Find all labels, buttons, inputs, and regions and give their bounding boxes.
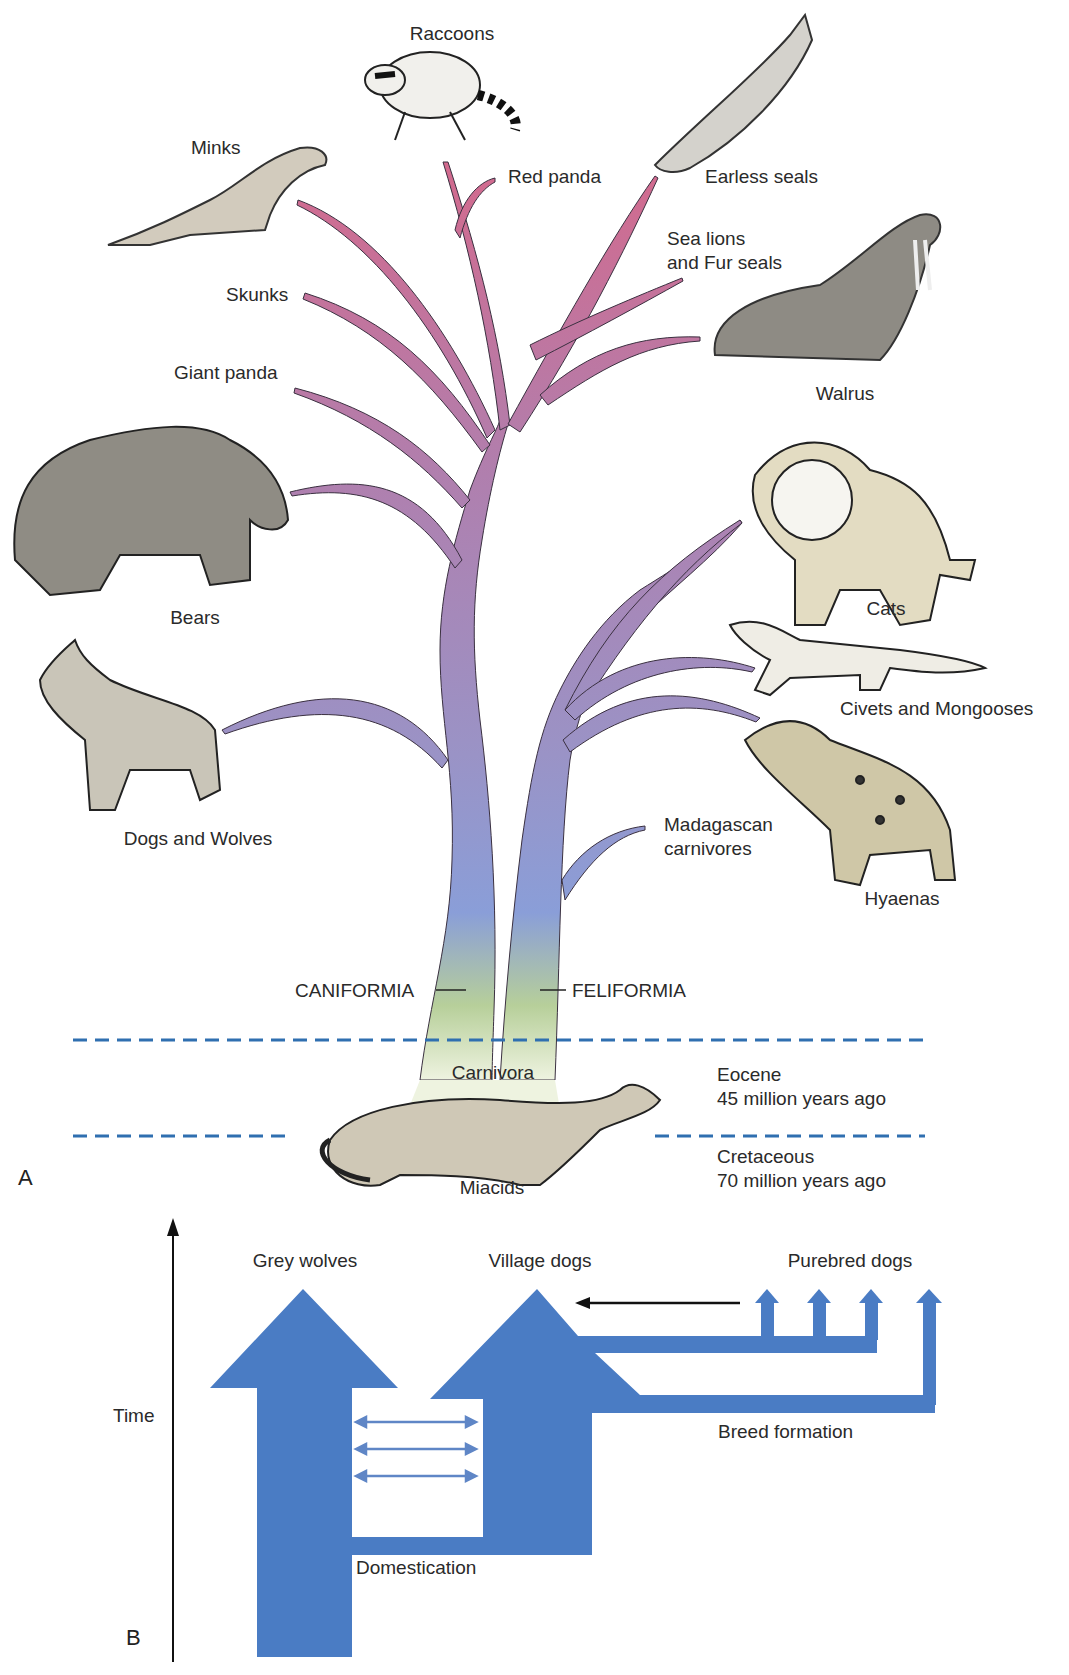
gene-flow-arrows	[356, 1417, 476, 1481]
mink-illustration	[108, 147, 326, 245]
label-madagascan-1: Madagascan	[664, 813, 773, 836]
domestication-diagram	[210, 1289, 942, 1657]
label-giant-panda: Giant panda	[174, 361, 278, 384]
label-hyaenas: Hyaenas	[865, 887, 940, 910]
backcross-arrow	[575, 1297, 740, 1309]
label-madagascan-2: carnivores	[664, 837, 752, 860]
label-feliformia: FELIFORMIA	[572, 979, 686, 1002]
label-bears: Bears	[170, 606, 220, 629]
label-skunks: Skunks	[226, 283, 288, 306]
label-breed-formation: Breed formation	[718, 1420, 853, 1443]
label-purebred-dogs: Purebred dogs	[788, 1249, 913, 1272]
label-raccoons: Raccoons	[410, 22, 495, 45]
label-earless-seals: Earless seals	[705, 165, 818, 188]
village-dogs-arrow	[430, 1289, 935, 1555]
label-red-panda: Red panda	[508, 165, 601, 188]
label-village-dogs: Village dogs	[488, 1249, 591, 1272]
panel-b-letter: B	[126, 1625, 141, 1651]
time-axis	[167, 1218, 179, 1662]
lion-illustration	[753, 443, 975, 626]
branch-dogs-wolves	[222, 699, 448, 768]
label-dogs-wolves: Dogs and Wolves	[124, 827, 273, 850]
branch-bears	[290, 484, 462, 568]
label-caniformia: CANIFORMIA	[295, 979, 414, 1002]
label-time-axis: Time	[113, 1404, 155, 1427]
seal-illustration	[655, 15, 812, 172]
miacid-illustration	[322, 1085, 660, 1186]
civet-illustration	[730, 622, 985, 695]
grey-wolves-arrow	[210, 1289, 398, 1657]
label-eocene: Eocene	[717, 1063, 781, 1086]
label-cats: Cats	[866, 597, 905, 620]
label-eocene-age: 45 million years ago	[717, 1087, 886, 1110]
raccoon-illustration	[365, 52, 516, 140]
label-walrus: Walrus	[816, 382, 874, 405]
label-grey-wolves: Grey wolves	[253, 1249, 358, 1272]
label-miacids: Miacids	[460, 1176, 524, 1199]
phylogenetic-tree	[222, 162, 760, 1110]
label-minks: Minks	[191, 136, 241, 159]
label-cretaceous: Cretaceous	[717, 1145, 814, 1168]
label-domestication: Domestication	[356, 1556, 476, 1579]
branch-raccoons	[443, 162, 510, 430]
hyaena-illustration	[745, 721, 955, 885]
label-cretaceous-age: 70 million years ago	[717, 1169, 886, 1192]
label-civets: Civets and Mongooses	[840, 697, 1033, 720]
label-sea-lions-1: Sea lions	[667, 227, 745, 250]
walrus-illustration	[715, 214, 941, 360]
panel-a-letter: A	[18, 1165, 33, 1191]
branch-madagascan	[562, 826, 645, 900]
label-carnivora: Carnivora	[452, 1061, 534, 1084]
label-sea-lions-2: and Fur seals	[667, 251, 782, 274]
bear-illustration	[14, 427, 288, 595]
wolf-illustration	[40, 640, 220, 810]
